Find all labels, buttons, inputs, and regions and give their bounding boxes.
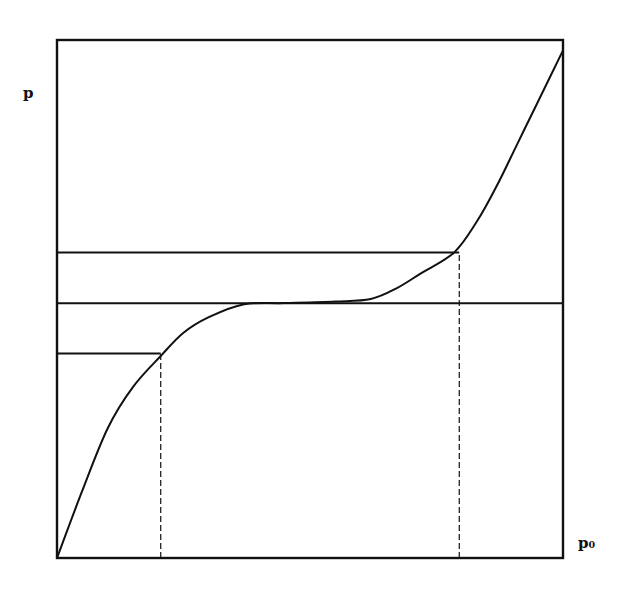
function-curve xyxy=(57,50,563,558)
y-axis-label: p xyxy=(23,84,34,102)
data-curves xyxy=(57,50,563,558)
reference-lines xyxy=(57,252,563,558)
axes-box xyxy=(57,40,563,558)
chart-canvas xyxy=(0,0,621,590)
plot-frame xyxy=(57,40,563,558)
x-axis-label: p₀ xyxy=(578,534,595,552)
